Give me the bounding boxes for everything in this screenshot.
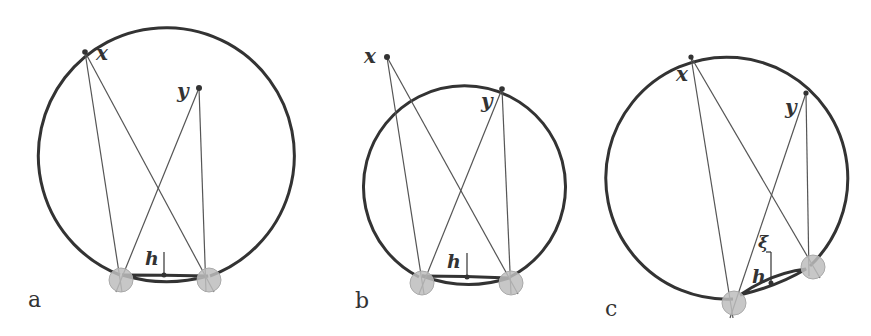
ray-y-right-c	[806, 93, 809, 276]
circle-a	[38, 28, 294, 276]
label-h-b: h	[447, 250, 461, 272]
point-y-a	[196, 85, 202, 91]
sensor-disc-right-a	[197, 268, 221, 292]
ray-x-left-a	[85, 52, 122, 292]
label-xi-c: ξ	[758, 232, 769, 252]
ray-x-right-c	[691, 57, 820, 278]
ray-y-right-b	[502, 89, 511, 294]
label-x-b: x	[363, 44, 377, 68]
sensor-disc-left-c	[722, 291, 746, 315]
panel-label-b: b	[355, 288, 369, 313]
label-h-a: h	[145, 247, 159, 269]
ray-x-left-c	[691, 57, 733, 318]
sensor-disc-right-c	[801, 255, 825, 279]
point-x-a	[82, 49, 88, 55]
label-x-c: x	[675, 62, 689, 86]
label-y-c: y	[784, 95, 798, 119]
panel-c: x y h ξ c	[605, 54, 848, 321]
panel-b: x y h b	[355, 44, 566, 313]
ray-y-right-a	[199, 88, 206, 292]
point-y-c	[803, 90, 808, 95]
point-y-b	[499, 86, 505, 92]
sensor-disc-right-b	[499, 271, 523, 295]
figure-canvas: x y h a x y h b x y	[0, 0, 871, 336]
ray-y-left-c	[730, 93, 806, 318]
panel-label-a: a	[28, 287, 41, 312]
label-y-b: y	[480, 89, 494, 113]
label-y-a: y	[176, 79, 190, 103]
panel-label-c: c	[605, 296, 617, 321]
sensor-disc-left-b	[410, 271, 434, 295]
label-h-c: h	[752, 265, 766, 287]
panel-a: x y h a	[28, 28, 294, 312]
point-x-c	[688, 54, 693, 59]
label-x-a: x	[95, 41, 109, 65]
point-x-b	[384, 54, 390, 60]
sensor-disc-left-a	[109, 268, 133, 292]
